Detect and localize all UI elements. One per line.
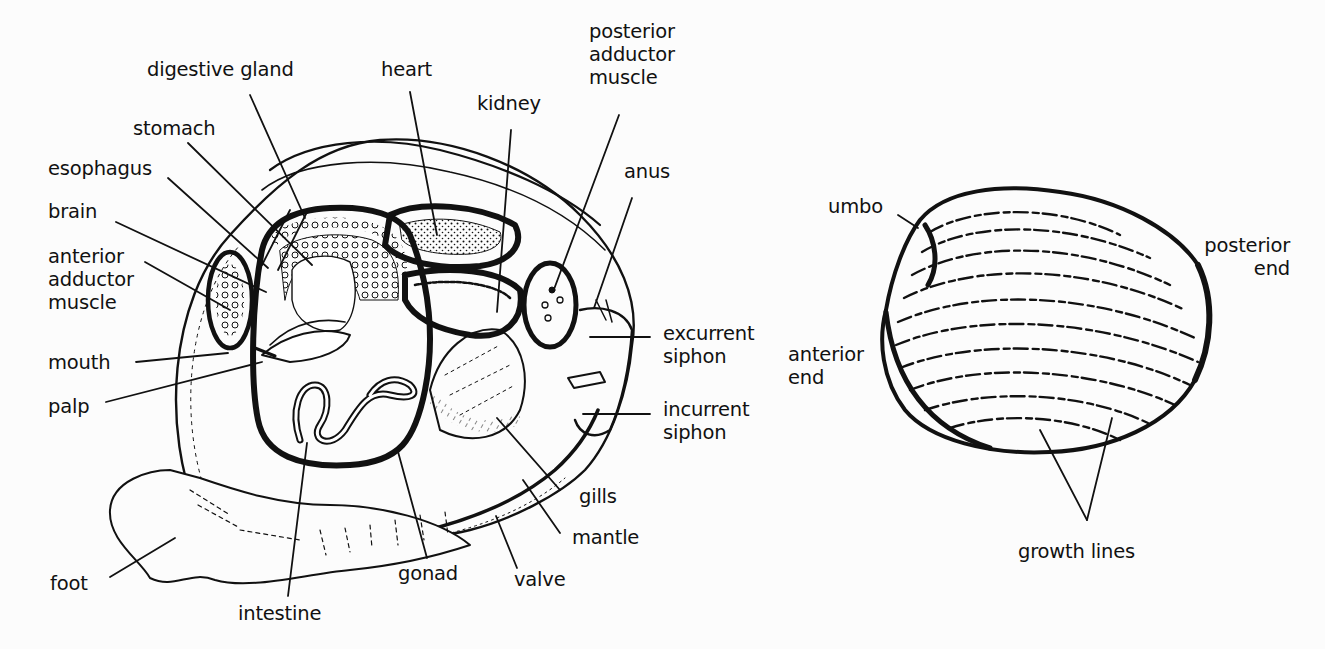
label-esophagus: esophagus (48, 157, 152, 180)
leader-growth-lines-b (1087, 418, 1112, 520)
internal-anatomy-drawing (110, 139, 634, 583)
label-stomach: stomach (133, 117, 215, 140)
leader-mouth (136, 353, 228, 362)
posterior-adductor (524, 263, 576, 347)
label-incurrent-siphon: incurrent siphon (663, 398, 749, 444)
label-anterior-end: anterior end (788, 343, 864, 389)
leader-gills (497, 418, 560, 490)
leader-stomach (188, 143, 312, 265)
siphon-block (575, 308, 632, 435)
label-growth-lines: growth lines (1018, 540, 1135, 563)
label-kidney: kidney (477, 92, 541, 115)
leader-growth-lines-a (1040, 430, 1087, 520)
leader-anus (594, 198, 632, 308)
label-mantle: mantle (572, 526, 639, 549)
label-valve: valve (514, 568, 565, 591)
label-intestine: intestine (238, 602, 321, 625)
leader-valve (496, 516, 517, 568)
label-foot: foot (50, 572, 88, 595)
label-palp: palp (48, 395, 89, 418)
external-shell-drawing (882, 188, 1209, 452)
label-excurrent-siphon: excurrent siphon (663, 322, 754, 368)
leader-brain (116, 222, 266, 292)
label-anus: anus (624, 160, 670, 183)
leader-palp (106, 362, 262, 402)
label-gonad: gonad (398, 562, 458, 585)
label-umbo: umbo (828, 195, 883, 218)
leader-lines-shell (898, 215, 1112, 520)
label-mouth: mouth (48, 351, 110, 374)
label-posterior-end: posterior end (1185, 234, 1290, 280)
label-heart: heart (381, 58, 432, 81)
leader-mantle (523, 480, 560, 533)
label-gills: gills (579, 485, 617, 508)
leader-digestive-gland (250, 95, 305, 218)
label-brain: brain (48, 200, 97, 223)
label-digestive-gland: digestive gland (147, 58, 294, 81)
intestine-loops (296, 380, 414, 441)
leader-esophagus (168, 178, 268, 268)
leader-heart (410, 92, 437, 235)
leader-umbo (898, 215, 918, 228)
label-posterior-adductor-muscle: posterior adductor muscle (589, 20, 675, 89)
label-anterior-adductor-muscle: anterior adductor muscle (48, 245, 134, 314)
